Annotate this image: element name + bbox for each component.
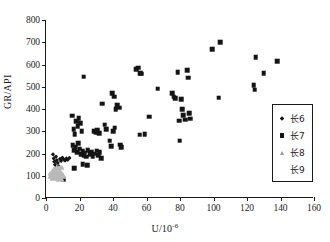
data-point — [185, 68, 190, 73]
data-point — [73, 132, 78, 137]
x-axis-tick-label: 120 — [240, 203, 254, 213]
data-point — [97, 131, 102, 136]
y-axis-tick-label: 300 — [26, 126, 40, 136]
x-axis-tick-label: 60 — [142, 203, 151, 213]
data-point — [252, 87, 257, 92]
y-axis-tick-label: 600 — [26, 60, 40, 70]
y-axis-tick-label: 800 — [26, 15, 40, 25]
legend-marker-square-icon — [277, 133, 287, 138]
legend-marker-triangle-icon — [277, 151, 287, 155]
data-point — [104, 127, 109, 132]
y-axis-tick-label: 200 — [26, 149, 40, 159]
data-point — [109, 144, 114, 149]
x-axis-tick — [147, 197, 148, 201]
data-point — [97, 150, 102, 155]
legend-item-label: 长7 — [290, 129, 305, 142]
x-axis-tick — [80, 197, 81, 201]
data-point — [78, 121, 83, 126]
data-point — [143, 132, 148, 137]
data-point — [72, 166, 77, 171]
data-point — [253, 55, 258, 60]
legend-item-label: 长6 — [290, 112, 305, 125]
x-axis-tick-label: 0 — [44, 203, 49, 213]
data-point — [188, 116, 193, 121]
data-point — [216, 96, 221, 101]
x-axis-tick — [113, 197, 114, 201]
y-axis-tick-label: 0 — [35, 193, 40, 203]
data-point — [79, 129, 84, 134]
y-axis-tick-label: 500 — [26, 82, 40, 92]
y-axis-tick-label: 400 — [26, 104, 40, 114]
legend-item-2: 长7 — [273, 127, 312, 144]
x-axis-tick — [46, 197, 47, 201]
data-point — [76, 141, 81, 146]
data-point — [117, 105, 122, 110]
legend-marker-diamond-icon — [277, 116, 287, 121]
y-axis-title: GR/API — [2, 74, 13, 109]
legend-item-1: 长6 — [273, 110, 312, 127]
data-point — [156, 86, 161, 91]
x-axis-tick-label: 20 — [75, 203, 84, 213]
data-point — [179, 97, 184, 102]
data-point — [100, 101, 105, 106]
data-point — [58, 170, 67, 179]
y-axis-tick-label: 100 — [26, 171, 40, 181]
legend-item-label: 长8 — [290, 146, 305, 159]
x-axis-title: U/10-6 — [0, 222, 330, 234]
data-point — [175, 70, 180, 75]
x-axis-title-exponent: -6 — [172, 222, 178, 230]
data-point — [177, 118, 182, 123]
x-axis-tick-label: 160 — [307, 203, 321, 213]
data-point — [180, 107, 185, 112]
data-point — [99, 156, 104, 161]
legend-item-label: 长9 — [290, 163, 305, 176]
x-axis-tick-label: 100 — [207, 203, 221, 213]
legend-item-4: 长9 — [273, 161, 312, 178]
x-axis-tick-label: 140 — [274, 203, 288, 213]
data-point — [186, 76, 191, 81]
x-axis-tick — [247, 197, 248, 201]
data-point — [187, 111, 192, 116]
data-point — [85, 163, 90, 168]
x-axis-tick — [281, 197, 282, 201]
data-point — [275, 59, 280, 64]
data-point — [77, 116, 82, 121]
data-point — [82, 74, 87, 79]
x-axis-title-text: U/10 — [151, 223, 172, 234]
x-axis-tick — [314, 197, 315, 201]
x-axis-tick-label: 40 — [108, 203, 117, 213]
y-axis-tick-label: 700 — [26, 37, 40, 47]
data-point — [261, 71, 266, 76]
x-axis-tick — [214, 197, 215, 201]
data-point — [119, 145, 124, 150]
scatter-chart-figure: GR/API U/10-6 0100200300400500600700800 … — [0, 0, 330, 242]
data-point — [107, 138, 112, 143]
data-point — [139, 72, 144, 77]
x-axis-tick-label: 80 — [175, 203, 184, 213]
data-point — [136, 65, 141, 70]
data-point — [218, 40, 223, 45]
legend-item-3: 长8 — [273, 144, 312, 161]
legend-marker-none-icon — [277, 167, 287, 172]
data-point — [147, 114, 152, 119]
data-point — [112, 94, 117, 99]
data-point — [177, 138, 182, 143]
legend-box: 长6长7长8长9 — [272, 104, 313, 182]
data-point — [112, 125, 117, 130]
data-point — [70, 113, 75, 118]
data-point — [210, 47, 215, 52]
x-axis-tick — [180, 197, 181, 201]
data-point — [183, 117, 188, 122]
data-point — [138, 133, 143, 138]
data-point — [173, 96, 178, 101]
